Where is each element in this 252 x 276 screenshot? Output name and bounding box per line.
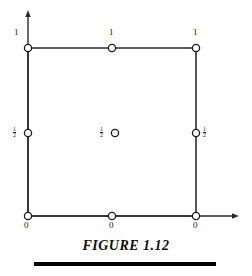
node-bottom-middle-edge [108,212,115,219]
node-top-middle-edge [108,44,115,51]
vertical-axis-arrowhead [25,10,30,17]
label-right-middle-edge: 1 2 [203,127,206,138]
node-bottom-right-corner [192,212,199,219]
node-left-middle-edge [24,129,31,136]
figure-page: 1 1 1 1 2 1 2 1 2 0 0 0 FIGURE 1.12 [0,0,252,276]
label-center-denominator: 2 [100,133,103,138]
figure-drawing-area: 1 1 1 1 2 1 2 1 2 0 0 0 [0,0,252,236]
node-top-right-corner [192,44,199,51]
caption-block: FIGURE 1.12 [0,236,252,276]
label-top-middle-edge: 1 [109,28,114,37]
figure-graphic [0,0,252,236]
node-right-middle-edge [192,129,199,136]
label-center-node: 1 2 [100,127,103,138]
label-bottom-right-corner: 0 [193,221,198,230]
figure-caption: FIGURE 1.12 [0,238,252,254]
caption-rule [34,262,216,266]
node-bottom-left-corner [24,212,31,219]
label-left-middle-edge: 1 2 [13,127,16,138]
horizontal-axis-arrowhead [232,213,239,218]
label-left-middle-denominator: 2 [13,133,16,138]
label-top-right-corner: 1 [193,28,198,37]
label-bottom-left-corner: 0 [24,221,29,230]
label-right-middle-denominator: 2 [203,133,206,138]
label-top-left-corner: 1 [14,28,19,37]
node-top-left-corner [24,44,31,51]
node-center [111,129,118,136]
label-bottom-middle-edge: 0 [109,221,114,230]
